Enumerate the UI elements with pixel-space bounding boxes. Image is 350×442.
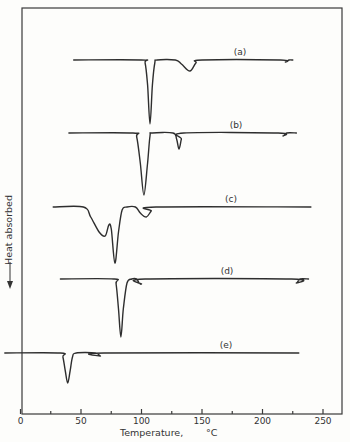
thermogram-curve-c <box>53 206 311 263</box>
curve-label-a: (a) <box>234 47 247 57</box>
curve-label-e: (e) <box>220 340 233 350</box>
curve-label-b: (b) <box>230 120 243 130</box>
y-axis-title-group: Heat absorbed <box>3 195 14 289</box>
x-axis-unit: °C <box>206 427 218 438</box>
x-tick-label: 250 <box>314 416 331 426</box>
dta-thermogram-chart: 050100150200250 (a)(b)(c)(d)(e) Temperat… <box>0 0 350 442</box>
x-axis-title: Temperature, <box>119 427 183 438</box>
curve-labels: (a)(b)(c)(d)(e) <box>220 47 247 350</box>
thermogram-curve-b <box>69 132 297 195</box>
down-arrow-icon <box>7 281 13 289</box>
x-axis-ticks: 050100150200250 <box>18 409 332 426</box>
curve-label-d: (d) <box>221 266 234 276</box>
thermogram-curve-d <box>60 278 308 337</box>
x-tick-label: 150 <box>193 416 210 426</box>
x-tick-label: 200 <box>254 416 271 426</box>
x-tick-label: 100 <box>133 416 150 426</box>
y-axis-title: Heat absorbed <box>3 195 14 265</box>
x-tick-label: 50 <box>75 416 87 426</box>
curve-label-c: (c) <box>225 194 237 204</box>
thermogram-curve-a <box>74 60 293 124</box>
x-tick-label: 0 <box>18 416 24 426</box>
thermogram-curve-e <box>5 353 299 383</box>
curves-group <box>5 60 311 383</box>
